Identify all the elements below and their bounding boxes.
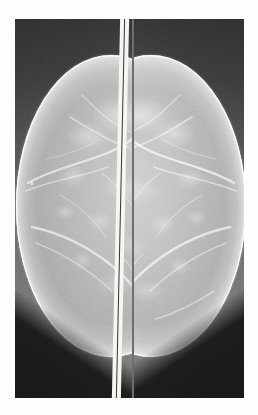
mammogram-film bbox=[15, 19, 244, 398]
collimation-wedge-left bbox=[15, 280, 132, 398]
collimation-wedge-right bbox=[134, 280, 244, 398]
page-root bbox=[0, 0, 258, 415]
mammogram-panel-left[interactable] bbox=[15, 19, 132, 398]
mammogram-panel-right[interactable] bbox=[134, 19, 244, 398]
film-marker-speck bbox=[31, 182, 33, 185]
